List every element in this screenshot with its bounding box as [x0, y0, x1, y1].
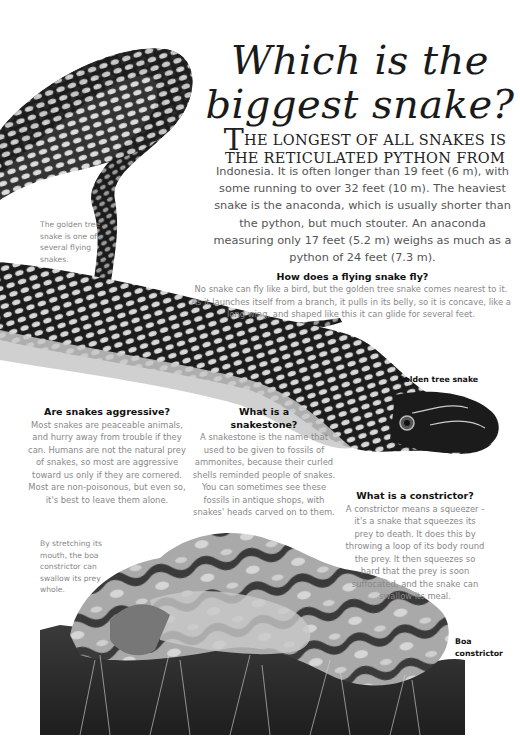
- label-golden-tree-snake: Golden tree snake: [398, 374, 478, 386]
- intro-lead-text: he longest of all snakes is the reticula…: [225, 132, 506, 166]
- caption-flying-snakes: The golden tree snake is one of several …: [40, 219, 102, 265]
- intro-lead: The longest of all snakes is the reticul…: [215, 130, 515, 167]
- label-boa-line-1: Boa: [455, 636, 503, 648]
- label-boa-constrictor: Boa constrictor: [455, 636, 503, 660]
- section-heading-line-1: What is a: [190, 406, 338, 419]
- section-heading-line-2: snakestone?: [190, 419, 338, 432]
- section-constrictor: What is a constrictor? A constrictor mea…: [345, 490, 485, 603]
- section-body: A constrictor means a squeezer - it's a …: [345, 503, 485, 603]
- caption-boa-swallow: By stretching its mouth, the boa constri…: [40, 538, 122, 596]
- intro-body: Indonesia. It is often longer than 19 fe…: [210, 163, 515, 266]
- label-boa-line-2: constrictor: [455, 648, 503, 660]
- section-flying-snake: How does a flying snake fly?: [190, 271, 515, 284]
- section-body: Most snakes are peaceable animals, and h…: [28, 419, 186, 507]
- title-line-2: biggest snake?: [200, 82, 520, 126]
- section-snakestone: What is a snakestone? A snakestone is th…: [190, 406, 338, 519]
- section-body: No snake can fly like a bird, but the go…: [190, 283, 512, 321]
- section-heading: Are snakes aggressive?: [28, 406, 186, 419]
- section-aggressive: Are snakes aggressive? Most snakes are p…: [28, 406, 186, 506]
- section-flying-snake-body: No snake can fly like a bird, but the go…: [190, 283, 512, 321]
- title-line-1: Which is the: [200, 38, 520, 82]
- section-heading: How does a flying snake fly?: [190, 271, 515, 284]
- section-body: A snakestone is the name that used to be…: [190, 431, 338, 519]
- page-title: Which is the biggest snake?: [200, 38, 520, 126]
- section-heading: What is a constrictor?: [345, 490, 485, 503]
- flying-body-wrap: No snake can fly like a bird, but the go…: [190, 283, 512, 321]
